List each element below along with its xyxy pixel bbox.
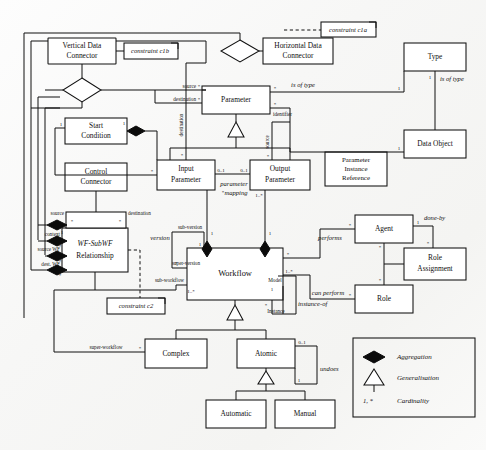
- uml-class-diagram: Vertical Data Connector constraint c1b H…: [0, 0, 486, 450]
- class-role-label: Role: [377, 294, 392, 303]
- card-can-perform-role-star: *: [349, 293, 352, 298]
- card-undoes-one: 1: [298, 378, 301, 383]
- class-pir-label-2: Instance: [345, 165, 368, 172]
- assoc-workflow-agent-performs: * performs *: [283, 223, 355, 258]
- card-workflow-agg-right-one: 1: [269, 231, 272, 236]
- card-input-destination-star: *: [181, 153, 184, 158]
- association-diamond-connector-parameter: [221, 40, 263, 62]
- assoc-label-performs: performs: [317, 234, 342, 241]
- card-performs-agent-star: *: [349, 223, 352, 228]
- card-output-source-star: *: [267, 154, 270, 159]
- card-agent-bottom-star: *: [379, 245, 382, 250]
- class-control-connector-label-1: Control: [85, 167, 108, 176]
- card-role-top-star: *: [379, 278, 382, 283]
- class-input-parameter[interactable]: Input Parameter: [157, 160, 215, 190]
- class-vertical-data-connector-label-2: Connector: [67, 51, 98, 60]
- role-label-instance: Instance: [267, 308, 285, 314]
- class-type[interactable]: Type: [404, 43, 466, 71]
- legend-generalisation-label: Generalisation: [397, 374, 439, 382]
- class-output-parameter[interactable]: Output Parameter: [250, 160, 310, 190]
- assoc-label-undoes: undoes: [320, 365, 339, 372]
- role-label-super-workflow: super-workflow: [89, 344, 122, 350]
- constraint-c1a[interactable]: constraint c1a: [284, 22, 376, 37]
- legend-generalisation-icon: [364, 369, 384, 385]
- role-label-source-wf: source WF: [37, 246, 60, 252]
- class-role-assignment-label-1: Role: [428, 253, 443, 262]
- assoc-label-instance-of: instance-of: [298, 300, 328, 307]
- class-agent[interactable]: Agent: [355, 215, 413, 243]
- card-performs-workflow-star: *: [287, 252, 290, 257]
- role-label-sub-version: sub-version: [178, 224, 203, 230]
- class-automatic[interactable]: Automatic: [206, 400, 266, 428]
- assoc-output-parameter-source-vertical: source *: [264, 122, 290, 160]
- class-atomic-label: Atomic: [255, 349, 278, 358]
- card-done-by-ra-star: *: [427, 241, 430, 246]
- role-label-source-vertical: source: [264, 135, 270, 149]
- class-vertical-data-connector[interactable]: Vertical Data Connector: [48, 38, 116, 64]
- role-label-sub-workflow: sub-workflow: [155, 277, 184, 283]
- card-mapping-right: 0..1: [240, 168, 248, 173]
- card-type-dataobject-one: 1: [429, 75, 432, 80]
- class-start-condition-label-2: Condition: [81, 131, 111, 140]
- card-type-one: 1: [398, 86, 401, 91]
- class-role-assignment[interactable]: Role Assignment: [404, 248, 466, 280]
- constraint-c2-label: constraint c2: [119, 302, 154, 309]
- role-label-destination-vertical: destination: [178, 113, 184, 136]
- class-type-label: Type: [428, 52, 443, 61]
- class-control-connector[interactable]: Control Connector: [65, 163, 127, 191]
- card-parameter-type-star: *: [274, 86, 277, 91]
- card-done-by-agent-one: 1: [417, 220, 420, 225]
- assoc-control-connector-source-destination: source destination * *: [50, 191, 151, 228]
- uml-diagram-canvas: Vertical Data Connector constraint c1b H…: [0, 0, 486, 450]
- card-dest-wf-star: *: [59, 273, 62, 278]
- assoc-atomic-undoes: 0..1 1 undoes: [295, 340, 339, 384]
- class-data-object[interactable]: Data Object: [404, 130, 466, 158]
- class-workflow[interactable]: Workflow: [187, 248, 283, 300]
- assoc-agent-role-roleassignment: * *: [379, 243, 404, 285]
- class-atomic[interactable]: Atomic: [237, 339, 295, 368]
- constraint-c1b-label: constraint c1b: [131, 47, 170, 54]
- class-wf-subwf-relationship[interactable]: WF-SubWF Relationship: [62, 228, 128, 272]
- legend-cardinality-label: Cardinality: [397, 397, 430, 405]
- role-label-identifier: identifier: [273, 111, 292, 117]
- card-dataobject-one: 1: [398, 146, 401, 151]
- assoc-output-parameter-workflow-aggregation: 1..* 1: [255, 190, 272, 257]
- assoc-workflow-role-can-perform: 1..* can perform *: [283, 269, 355, 299]
- class-parameter-instance-reference[interactable]: Parameter Instance Reference: [325, 152, 387, 186]
- assoc-label-parameter-mapping-2: mapping: [224, 189, 248, 196]
- assoc-parameter-identifier-dataobject: * identifier 1: [270, 102, 404, 152]
- role-label-cc-source: source: [50, 210, 64, 216]
- constraint-c1a-label: constraint c1a: [329, 26, 368, 33]
- card-identifier-star: *: [274, 102, 277, 107]
- card-destination-star: *: [198, 97, 201, 102]
- class-manual-label: Manual: [294, 409, 317, 418]
- class-parameter[interactable]: Parameter: [202, 86, 270, 114]
- generalisation-workflow: [176, 300, 266, 339]
- class-complex[interactable]: Complex: [145, 339, 207, 368]
- assoc-workflow-version: version sub-version super-version 1 *: [150, 224, 204, 268]
- legend-aggregation-label: Aggregation: [396, 353, 432, 361]
- legend-aggregation-icon: [363, 351, 385, 363]
- role-label-model: Model: [268, 277, 282, 283]
- class-horizontal-data-connector[interactable]: Horizontal Data Connector: [263, 38, 333, 64]
- card-output-one-star: 1..*: [255, 193, 263, 198]
- class-control-connector-label-2: Connector: [81, 177, 112, 186]
- class-start-condition[interactable]: Start Condition: [65, 118, 127, 144]
- class-input-parameter-label-1: Input: [178, 164, 195, 173]
- card-super-workflow-star: *: [139, 346, 142, 351]
- class-workflow-label: Workflow: [218, 269, 253, 278]
- class-output-parameter-label-1: Output: [270, 164, 291, 173]
- assoc-label-is-of-type-type: is of type: [440, 75, 464, 82]
- card-mapping-left: 0..1: [217, 168, 225, 173]
- class-role[interactable]: Role: [355, 285, 413, 313]
- card-input-parameter-star: *: [151, 169, 154, 174]
- constraint-c1b[interactable]: constraint c1b: [116, 43, 178, 59]
- class-manual[interactable]: Manual: [275, 400, 335, 428]
- class-complex-label: Complex: [162, 349, 189, 358]
- class-parameter-label: Parameter: [221, 95, 251, 104]
- card-workflow-one-star-left: 1..*: [187, 289, 195, 294]
- role-label-source: source: [182, 83, 196, 89]
- card-workflow-agg-left-one: 1: [211, 231, 214, 236]
- class-wf-subwf-label-2: Relationship: [76, 251, 114, 260]
- card-version-one: 1: [199, 242, 202, 247]
